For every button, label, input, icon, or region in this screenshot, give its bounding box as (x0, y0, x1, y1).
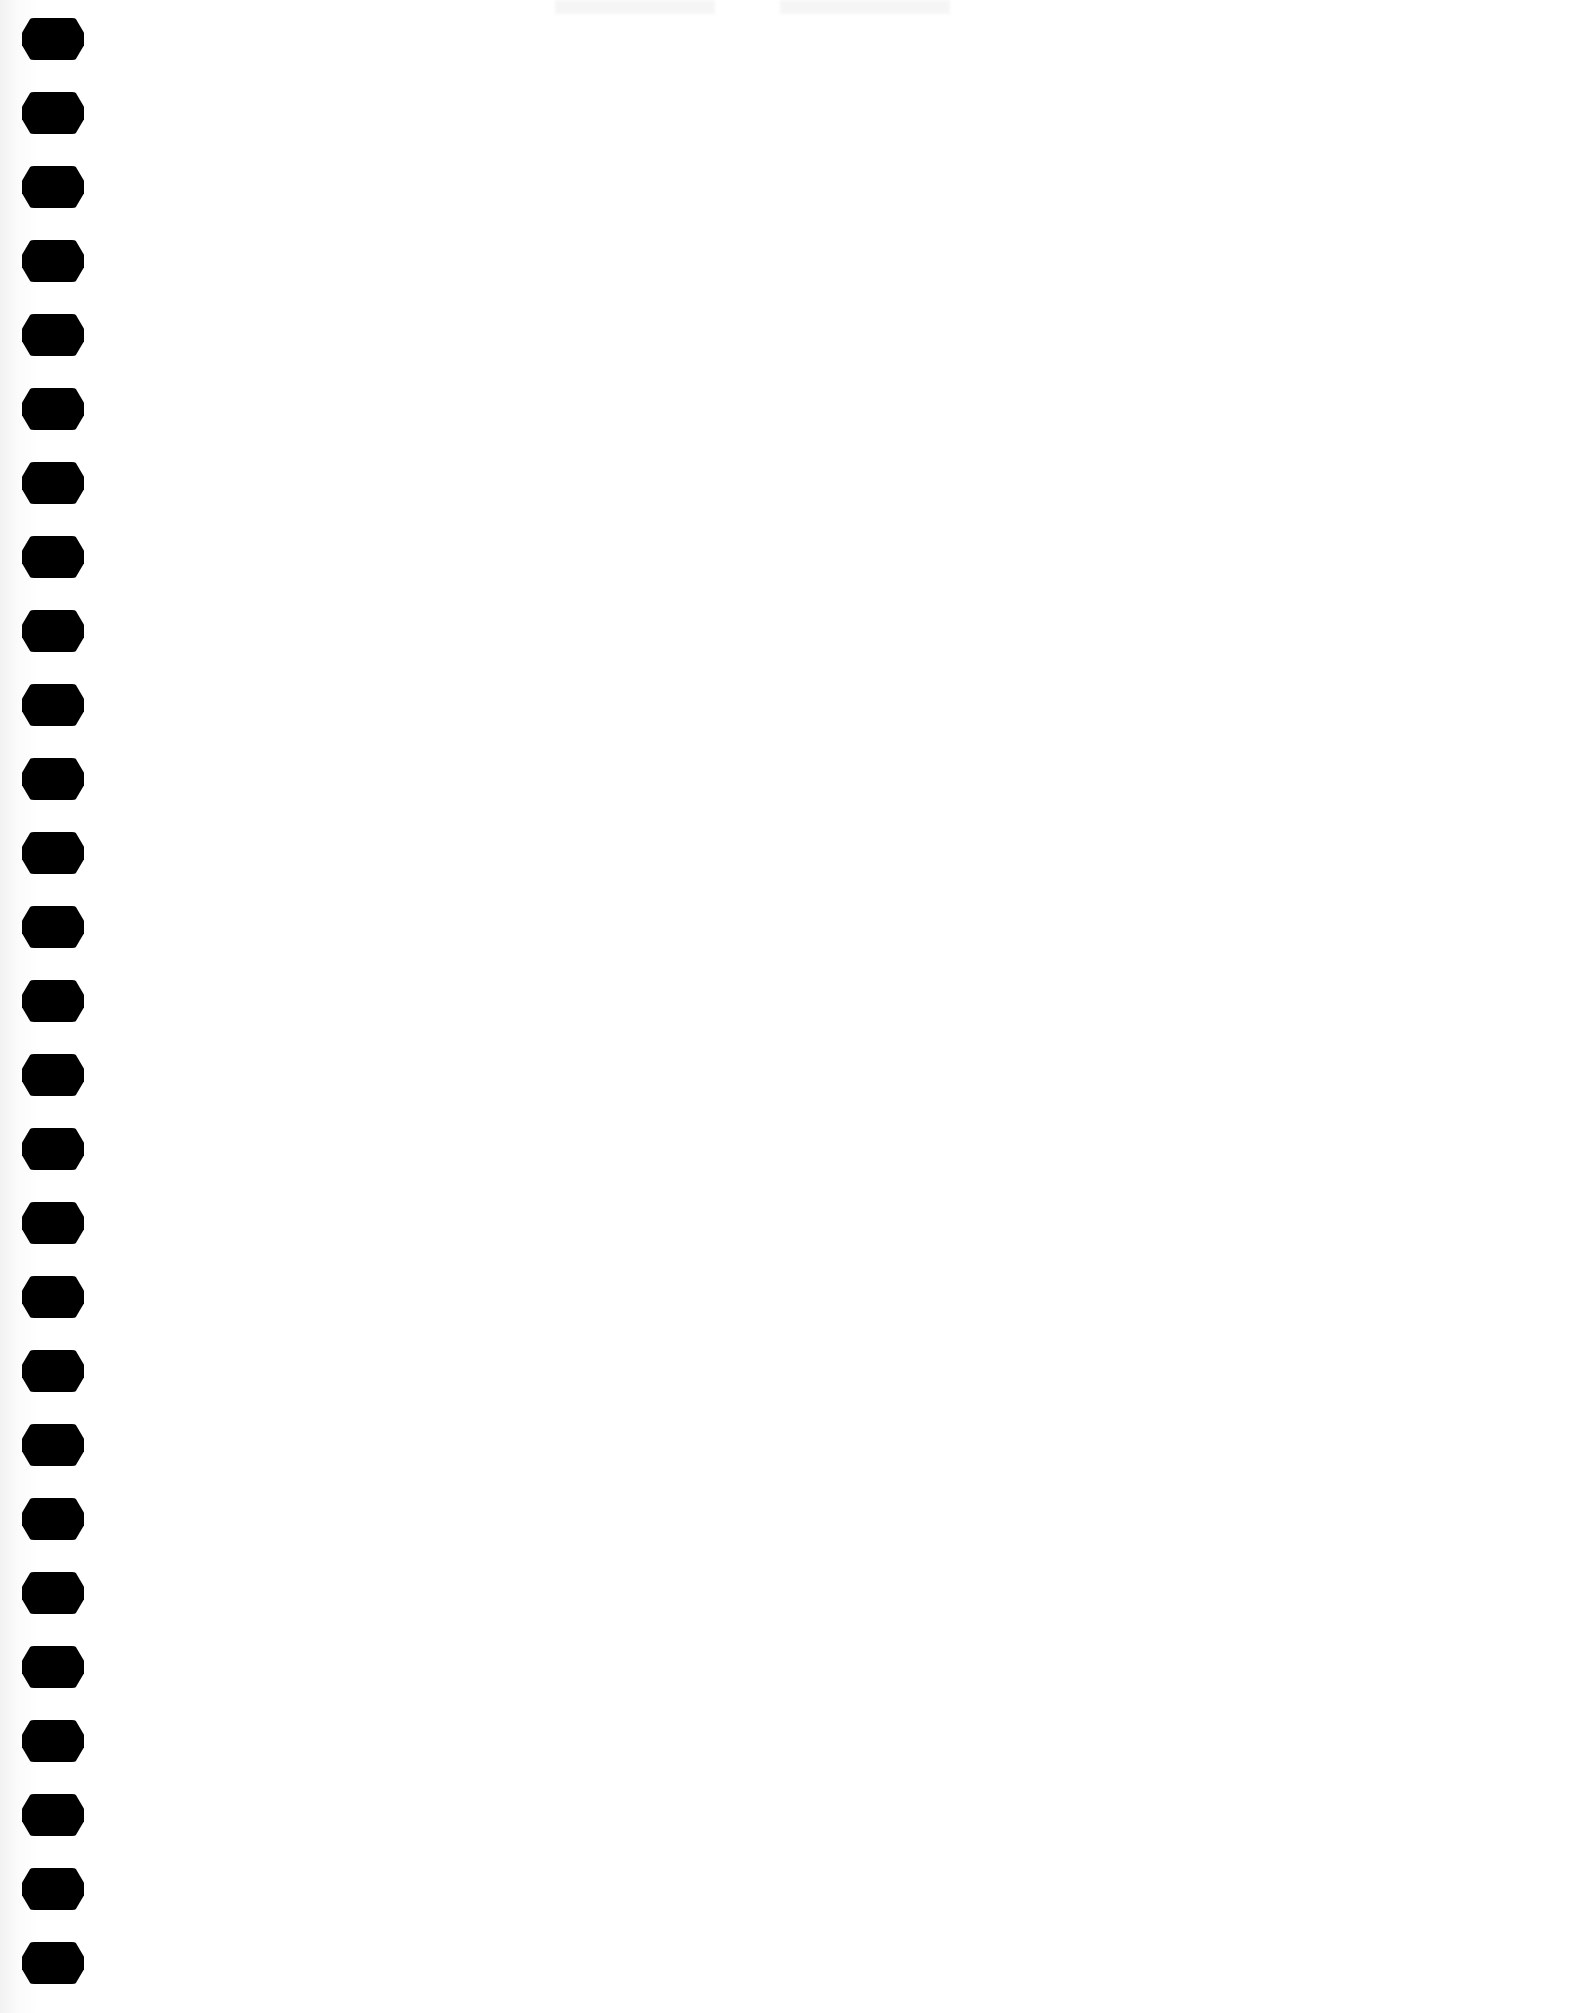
punch-hole (22, 314, 84, 356)
punch-hole (22, 1128, 84, 1170)
punch-hole (22, 1202, 84, 1244)
punch-hole (22, 1794, 84, 1836)
punch-hole (22, 1498, 84, 1540)
punch-hole (22, 1350, 84, 1392)
punch-hole (22, 92, 84, 134)
bleed-through-text-left (555, 0, 715, 14)
punch-hole (22, 684, 84, 726)
punch-hole (22, 1276, 84, 1318)
punch-hole (22, 1054, 84, 1096)
punch-hole (22, 18, 84, 60)
punched-holes (0, 0, 110, 2013)
punch-hole (22, 536, 84, 578)
punch-hole (22, 1572, 84, 1614)
punch-hole (22, 1868, 84, 1910)
punch-hole (22, 462, 84, 504)
punch-hole (22, 1942, 84, 1984)
bleed-through-text-right (780, 0, 950, 14)
notebook-page (0, 0, 1585, 2013)
punch-hole (22, 1646, 84, 1688)
punch-hole (22, 388, 84, 430)
punch-hole (22, 610, 84, 652)
punch-hole (22, 1720, 84, 1762)
punch-hole (22, 906, 84, 948)
punch-hole (22, 980, 84, 1022)
punch-hole (22, 758, 84, 800)
punch-hole (22, 240, 84, 282)
punch-hole (22, 832, 84, 874)
punch-hole (22, 1424, 84, 1466)
punch-hole (22, 166, 84, 208)
